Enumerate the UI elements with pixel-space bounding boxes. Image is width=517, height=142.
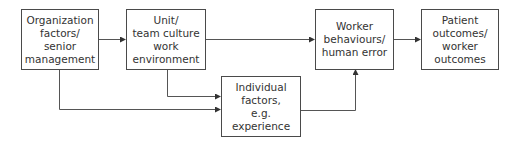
box-individual-factors: Individual factors, e.g. experience xyxy=(221,76,301,137)
box-patient-outcomes: Patient outcomes/ worker outcomes xyxy=(421,9,499,70)
box-worker-behaviours: Worker behaviours/ human error xyxy=(315,9,394,70)
edge-unit-to-individual xyxy=(168,69,221,97)
box-unit-team-culture: Unit/ team culture work environment xyxy=(126,9,206,70)
box-organization-factors: Organization factors/ senior management xyxy=(21,9,99,70)
edge-org-to-individual xyxy=(60,69,221,110)
edge-individual-to-worker xyxy=(300,70,356,111)
